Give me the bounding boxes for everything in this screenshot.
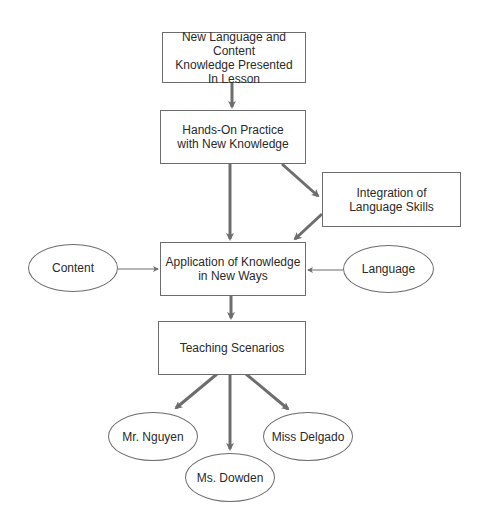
node-miss-delgado: Miss Delgado	[263, 412, 353, 461]
arrow-handson-to-integration	[282, 164, 318, 196]
node-hands-on-practice: Hands-On Practice with New Knowledge	[160, 110, 306, 164]
node-label: Mr. Nguyen	[122, 430, 183, 444]
node-integration: Integration of Language Skills	[322, 172, 461, 227]
node-label: Teaching Scenarios	[180, 341, 285, 355]
node-label: Content	[52, 261, 94, 275]
arrow-teaching-to-delgado	[246, 374, 288, 409]
node-label: New Language and Content Knowledge Prese…	[163, 30, 305, 86]
node-label: Hands-On Practice with New Knowledge	[177, 123, 288, 151]
node-label: Ms. Dowden	[197, 471, 264, 485]
node-new-knowledge: New Language and Content Knowledge Prese…	[162, 32, 306, 83]
node-content: Content	[28, 244, 118, 292]
node-mr-nguyen: Mr. Nguyen	[108, 412, 198, 461]
node-teaching-scenarios: Teaching Scenarios	[158, 321, 306, 375]
node-language: Language	[343, 245, 434, 293]
arrow-teaching-to-nguyen	[176, 374, 217, 408]
node-label: Miss Delgado	[272, 430, 345, 444]
node-label: Language	[362, 262, 415, 276]
node-application: Application of Knowledge in New Ways	[160, 242, 306, 296]
arrow-integration-to-application	[295, 214, 322, 239]
node-label: Integration of Language Skills	[349, 186, 434, 214]
node-label: Application of Knowledge in New Ways	[166, 255, 301, 283]
node-ms-dowden: Ms. Dowden	[185, 453, 275, 502]
